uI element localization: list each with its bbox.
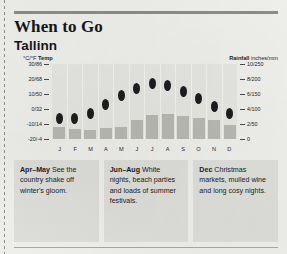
month-label: D	[222, 144, 237, 154]
temperature-dot	[87, 108, 94, 119]
rainfall-bar	[131, 120, 143, 139]
month-columns	[52, 64, 237, 139]
right-axis-tick: 0	[240, 136, 250, 142]
bottom-rule-divider	[14, 247, 278, 248]
month-axis-labels: JFMAMJJASOND	[52, 144, 237, 154]
temperature-dot	[71, 113, 78, 124]
month-label: F	[67, 144, 82, 154]
temperature-dot	[195, 93, 202, 104]
month-column	[192, 64, 208, 139]
month-label: N	[206, 144, 221, 154]
temperature-dot	[56, 113, 63, 124]
temperature-dot	[180, 86, 187, 97]
right-axis-tick: 4/100	[240, 106, 261, 112]
rainfall-bar	[84, 130, 96, 139]
temperature-dot	[149, 78, 156, 89]
right-axis-tick: 10/250	[240, 61, 264, 67]
right-axis-tick: 8/200	[240, 76, 261, 82]
month-column	[145, 64, 161, 139]
season-card: Jun–Aug White nights, beach parties and …	[104, 160, 189, 242]
right-axis-tick: 2/50	[240, 121, 258, 127]
rainfall-bar	[208, 120, 220, 139]
left-axis-tick: -10/14	[27, 121, 49, 127]
month-column	[99, 64, 115, 139]
month-label: J	[145, 144, 160, 154]
month-label: S	[175, 144, 190, 154]
temperature-dot	[164, 80, 171, 91]
left-axis-tick: -20/-4	[28, 136, 49, 142]
month-label: J	[129, 144, 144, 154]
rainfall-bar	[162, 114, 174, 139]
temperature-dot	[102, 99, 109, 110]
season-card-lead: Jun–Aug	[110, 166, 140, 174]
season-cards: Apr–May See the country shake off winter…	[14, 160, 278, 242]
month-column	[130, 64, 146, 139]
rainfall-bar	[115, 127, 127, 139]
rainfall-bar	[53, 127, 65, 139]
month-label: M	[114, 144, 129, 154]
dotted-cut-line	[4, 0, 5, 254]
left-axis-tick: 30/86	[29, 61, 50, 67]
month-label: A	[98, 144, 113, 154]
month-column	[223, 64, 238, 139]
month-label: M	[83, 144, 98, 154]
rainfall-bar	[224, 125, 236, 139]
rainfall-bar	[100, 128, 112, 139]
temperature-dot	[226, 108, 233, 119]
season-card: Apr–May See the country shake off winter…	[14, 160, 99, 242]
left-axis-tick: 20/68	[29, 76, 50, 82]
season-card: Dec Christmas markets, mulled wine and l…	[193, 160, 278, 242]
month-column	[176, 64, 192, 139]
month-label: O	[191, 144, 206, 154]
climate-chart: °C/°F Temp Rainfall inches/mm 30/8620/68…	[14, 55, 278, 155]
month-column	[68, 64, 84, 139]
rainfall-bar	[146, 115, 158, 139]
month-column	[52, 64, 68, 139]
month-label: A	[160, 144, 175, 154]
rainfall-bar	[193, 118, 205, 139]
month-column	[83, 64, 99, 139]
rainfall-bar	[69, 129, 81, 139]
left-axis-tick: 0/32	[32, 106, 50, 112]
page-title: When to Go	[14, 17, 103, 37]
temperature-dot	[211, 101, 218, 112]
month-column	[114, 64, 130, 139]
page-root: When to Go Tallinn °C/°F Temp Rainfall i…	[0, 0, 287, 254]
temperature-dot	[118, 90, 125, 101]
page-subtitle: Tallinn	[14, 38, 57, 53]
temperature-dot	[133, 83, 140, 94]
season-card-lead: Apr–May	[20, 166, 50, 174]
plot-area: 30/8620/6810/500/32-10/14-20/-4 10/2508/…	[52, 64, 237, 139]
month-label: J	[52, 144, 67, 154]
top-rule-divider	[14, 11, 278, 14]
right-axis-tick: 6/150	[240, 91, 261, 97]
month-column	[161, 64, 177, 139]
left-axis-tick: 10/50	[29, 91, 50, 97]
season-card-lead: Dec	[199, 166, 212, 174]
rainfall-bar	[177, 116, 189, 139]
month-column	[207, 64, 223, 139]
